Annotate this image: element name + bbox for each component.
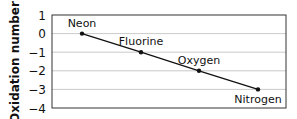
y-tick-label: −2: [28, 64, 46, 78]
point-label: Oxygen: [178, 54, 220, 67]
point-labels: NeonFluorineOxygenNitrogen: [68, 17, 282, 107]
point-label: Neon: [68, 17, 97, 30]
y-tick-label: −1: [28, 46, 46, 60]
y-axis-ticks: 10−1−2−3−4: [28, 9, 46, 116]
data-point: [256, 87, 260, 91]
y-tick-label: 0: [38, 27, 46, 41]
data-line: [82, 34, 258, 90]
data-point: [80, 31, 84, 35]
y-axis-label: Oxidation number: [8, 1, 22, 119]
y-tick-label: −3: [28, 83, 46, 97]
point-label: Fluorine: [119, 35, 164, 48]
point-label: Nitrogen: [234, 93, 281, 106]
y-tick-label: −4: [28, 102, 46, 116]
oxidation-number-chart: Oxidation number 10−1−2−3−4 NeonFluorine…: [0, 0, 297, 119]
data-point: [197, 69, 201, 73]
y-tick-label: 1: [38, 9, 46, 23]
data-point: [139, 50, 143, 54]
